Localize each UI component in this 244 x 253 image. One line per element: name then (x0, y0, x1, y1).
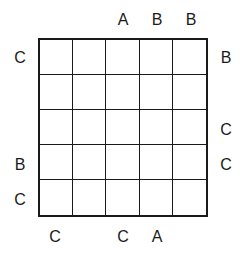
grid-cell-r4c1[interactable] (40, 145, 73, 180)
puzzle-grid (38, 38, 208, 217)
grid-cell-r1c5[interactable] (173, 40, 206, 75)
left-clue-4: B (10, 157, 30, 173)
grid-cell-r5c4[interactable] (140, 180, 173, 215)
grid-cell-r4c2[interactable] (73, 145, 106, 180)
grid-cell-r5c5[interactable] (173, 180, 206, 215)
left-clue-5: C (10, 192, 30, 208)
grid-cell-r2c4[interactable] (140, 75, 173, 110)
grid-cell-r4c4[interactable] (140, 145, 173, 180)
bottom-clue-3: C (113, 229, 133, 245)
grid-cell-r1c1[interactable] (40, 40, 73, 75)
grid-cell-r3c1[interactable] (40, 110, 73, 145)
top-clue-4: B (147, 12, 167, 28)
grid-cell-r3c4[interactable] (140, 110, 173, 145)
left-clue-1: C (10, 50, 30, 66)
grid-cell-r1c3[interactable] (106, 40, 139, 75)
grid-cell-r2c1[interactable] (40, 75, 73, 110)
bottom-clue-1: C (45, 229, 65, 245)
grid-cell-r3c2[interactable] (73, 110, 106, 145)
grid-cell-r2c3[interactable] (106, 75, 139, 110)
grid-cell-r5c2[interactable] (73, 180, 106, 215)
bottom-clue-4: A (147, 229, 167, 245)
top-clue-5: B (181, 12, 201, 28)
grid-cell-r5c3[interactable] (106, 180, 139, 215)
grid-cell-r4c5[interactable] (173, 145, 206, 180)
grid-cell-r3c3[interactable] (106, 110, 139, 145)
grid-cell-r5c1[interactable] (40, 180, 73, 215)
grid-cell-r4c3[interactable] (106, 145, 139, 180)
grid-cell-r1c2[interactable] (73, 40, 106, 75)
grid-cell-r2c5[interactable] (173, 75, 206, 110)
right-clue-1: B (216, 50, 236, 66)
grid-cell-r2c2[interactable] (73, 75, 106, 110)
grid-cell-r1c4[interactable] (140, 40, 173, 75)
grid-cell-r3c5[interactable] (173, 110, 206, 145)
top-clue-3: A (113, 12, 133, 28)
right-clue-4: C (216, 157, 236, 173)
right-clue-3: C (216, 122, 236, 138)
